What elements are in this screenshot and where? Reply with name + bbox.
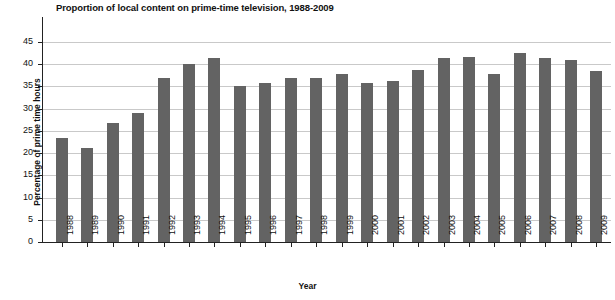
gridline — [43, 42, 611, 43]
x-axis-tick-mark — [520, 243, 521, 247]
x-axis-tick-label: 2003 — [448, 215, 457, 249]
x-axis-tick-mark — [240, 243, 241, 247]
bar[interactable] — [514, 53, 526, 242]
x-axis-tick-label: 1991 — [142, 215, 151, 249]
x-axis-tick-label: 1988 — [66, 215, 75, 249]
y-axis-tick-mark — [38, 64, 43, 65]
x-axis-tick-mark — [571, 243, 572, 247]
x-axis-tick-label: 2006 — [524, 215, 533, 249]
x-axis-tick-mark — [87, 243, 88, 247]
x-axis-tick-label: 2000 — [371, 215, 380, 249]
x-axis-tick-mark — [164, 243, 165, 247]
y-axis-tick-label: 35 — [9, 81, 33, 90]
y-axis-tick-mark — [38, 109, 43, 110]
x-axis-tick-label: 1989 — [91, 215, 100, 249]
y-axis-tick-labels: 051015202530354045 — [9, 42, 33, 242]
x-axis-tick-mark — [316, 243, 317, 247]
y-axis-tick-mark — [38, 153, 43, 154]
y-axis-tick-mark — [38, 242, 43, 243]
y-axis-tick-mark — [38, 42, 43, 43]
x-axis-tick-label: 1996 — [269, 215, 278, 249]
chart-figure: Proportion of local content on prime-tim… — [0, 0, 615, 300]
x-axis-tick-mark — [265, 243, 266, 247]
x-axis-tick-mark — [113, 243, 114, 247]
y-axis-tick-mark — [38, 175, 43, 176]
x-axis-tick-label: 1993 — [193, 215, 202, 249]
x-axis-tick-mark — [494, 243, 495, 247]
y-axis-tick-mark — [38, 86, 43, 87]
x-axis-tick-mark — [214, 243, 215, 247]
x-axis-tick-label: 1998 — [320, 215, 329, 249]
y-axis-tick-label: 20 — [9, 148, 33, 157]
x-axis-tick-mark — [138, 243, 139, 247]
y-axis-tick-label: 5 — [9, 215, 33, 224]
x-axis-tick-mark — [291, 243, 292, 247]
x-axis-tick-label: 2008 — [575, 215, 584, 249]
x-axis-tick-mark — [342, 243, 343, 247]
x-axis-tick-label: 2002 — [422, 215, 431, 249]
x-axis-tick-label: 1994 — [218, 215, 227, 249]
x-axis-tick-label: 1990 — [117, 215, 126, 249]
y-axis-tick-label: 10 — [9, 193, 33, 202]
x-axis-title: Year — [0, 281, 615, 291]
x-axis-tick-label: 2005 — [498, 215, 507, 249]
x-axis-tick-label: 1999 — [346, 215, 355, 249]
y-axis-tick-label: 0 — [9, 237, 33, 246]
chart-title: Proportion of local content on prime-tim… — [56, 2, 334, 13]
x-axis-tick-label: 2001 — [397, 215, 406, 249]
plot-area — [43, 42, 611, 242]
x-axis-tick-mark — [62, 243, 63, 247]
x-axis-tick-mark — [393, 243, 394, 247]
x-axis-tick-label: 2004 — [473, 215, 482, 249]
x-axis-tick-label: 1992 — [168, 215, 177, 249]
y-axis-tick-mark — [38, 131, 43, 132]
x-axis-tick-mark — [418, 243, 419, 247]
y-axis-tick-label: 30 — [9, 104, 33, 113]
x-axis-tick-label: 1995 — [244, 215, 253, 249]
x-axis-tick-label: 1997 — [295, 215, 304, 249]
y-axis-tick-mark — [38, 220, 43, 221]
y-axis-tick-label: 25 — [9, 126, 33, 135]
x-axis-tick-mark — [367, 243, 368, 247]
x-axis-tick-label: 2009 — [600, 215, 609, 249]
x-axis-tick-mark — [444, 243, 445, 247]
x-axis-tick-mark — [596, 243, 597, 247]
y-axis-tick-mark — [38, 198, 43, 199]
x-axis-tick-label: 2007 — [549, 215, 558, 249]
x-axis-tick-mark — [469, 243, 470, 247]
y-axis-tick-label: 15 — [9, 170, 33, 179]
x-axis-tick-mark — [545, 243, 546, 247]
x-axis-tick-mark — [189, 243, 190, 247]
y-axis-tick-label: 45 — [9, 37, 33, 46]
y-axis-title: Percentage of prime time hours — [32, 42, 42, 242]
y-axis-tick-label: 40 — [9, 59, 33, 68]
